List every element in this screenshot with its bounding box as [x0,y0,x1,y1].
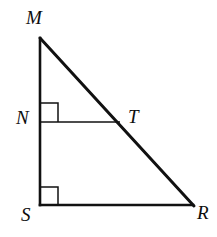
right-angle-mark-at-N [40,103,58,122]
vertex-label-T: T [128,107,139,126]
triangle-diagram-canvas [0,0,217,237]
vertex-label-R: R [197,203,209,222]
right-angle-mark-at-S [40,187,58,205]
vertex-label-M: M [26,8,42,27]
vertex-label-N: N [16,108,29,127]
geometry-figure: M N T S R [0,0,217,237]
vertex-label-S: S [21,205,31,224]
